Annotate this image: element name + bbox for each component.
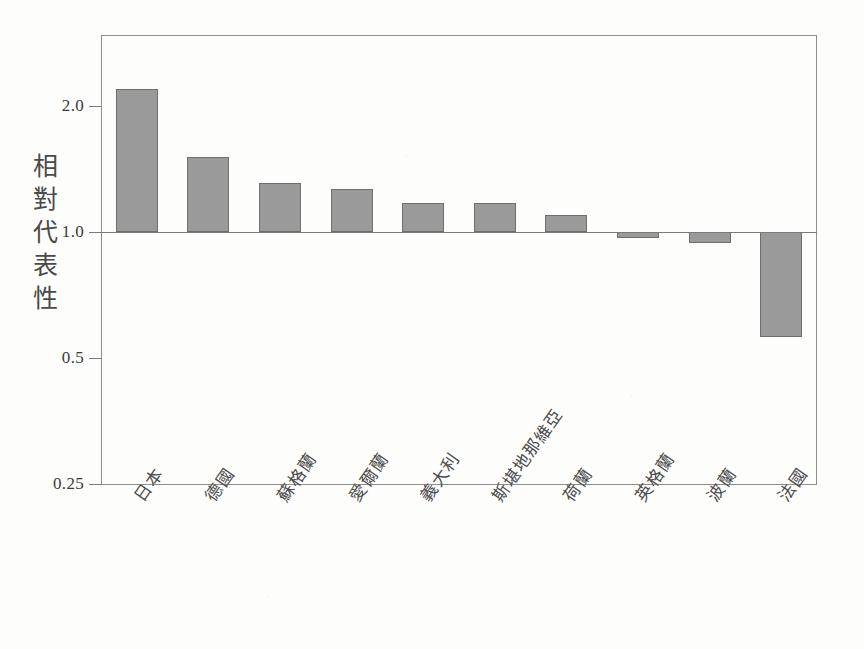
y-tick-label: 0.5 <box>28 348 84 368</box>
bar-chart-figure: 相對代表性 2.01.00.50.25 日本德國蘇格蘭愛爾蘭義大利斯堪地那維亞荷… <box>0 0 864 649</box>
bar <box>402 203 444 232</box>
bar <box>474 203 516 232</box>
y-tick-label: 1.0 <box>28 222 84 242</box>
bar <box>689 232 731 243</box>
bar <box>187 157 229 232</box>
y-tick-mark <box>89 484 101 485</box>
y-tick-label: 2.0 <box>28 96 84 116</box>
bar <box>331 189 373 232</box>
bar <box>545 215 587 232</box>
y-tick-mark <box>89 232 101 233</box>
y-tick-label: 0.25 <box>28 474 84 494</box>
baseline-1.0 <box>101 232 817 233</box>
bar <box>259 183 301 232</box>
bar <box>116 89 158 232</box>
y-tick-mark <box>89 358 101 359</box>
plot-area <box>101 35 817 485</box>
y-tick-mark <box>89 106 101 107</box>
bar <box>760 232 802 337</box>
